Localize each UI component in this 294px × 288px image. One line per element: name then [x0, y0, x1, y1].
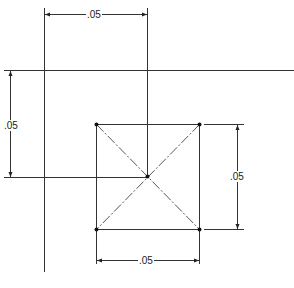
- center-point: [146, 175, 150, 179]
- vertex-top-right: [198, 123, 202, 127]
- vertex-bottom-right: [198, 228, 202, 232]
- vertex-top-left: [95, 123, 99, 127]
- vertex-bottom-left: [95, 228, 99, 232]
- drawing-canvas: [0, 0, 294, 288]
- left-dimension-label: .05: [3, 120, 19, 131]
- right-dimension-label: .05: [229, 171, 245, 182]
- top-dimension-label: .05: [86, 9, 102, 20]
- bottom-dimension-label: .05: [138, 255, 154, 266]
